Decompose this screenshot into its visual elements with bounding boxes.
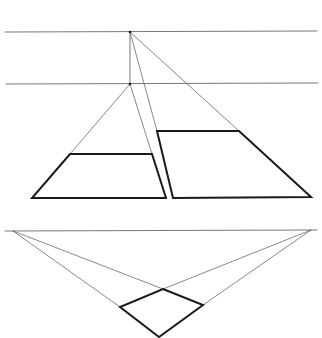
two-point-perspective — [5, 230, 317, 337]
construction-line — [130, 84, 152, 154]
perspective-diagram — [0, 0, 322, 338]
construction-line — [130, 32, 239, 131]
construction-line — [203, 230, 311, 305]
construction-line — [70, 84, 130, 154]
right-block-outline — [157, 131, 311, 198]
construction-line — [13, 231, 120, 307]
horizon-line-two-point — [5, 230, 317, 231]
left-block-outline — [32, 154, 166, 198]
diagram-svg — [0, 0, 322, 338]
construction-line — [163, 230, 311, 289]
horizon-line-upper — [5, 31, 317, 32]
vanishing-point — [129, 83, 132, 86]
box-top-face-outline — [120, 289, 203, 337]
one-point-perspective — [5, 31, 318, 198]
construction-line — [13, 231, 163, 289]
construction-line — [130, 32, 157, 131]
horizon-line-lower — [6, 83, 318, 84]
vanishing-point — [129, 31, 132, 34]
